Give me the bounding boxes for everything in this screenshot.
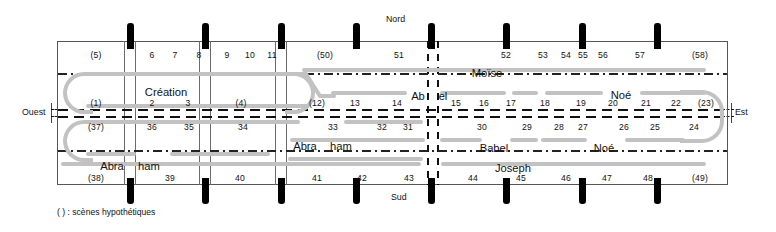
scene-label-abraham_mid2: ham (330, 140, 352, 152)
scene-label-abel_left: Ab (411, 90, 425, 102)
compass-south-label: Sud (391, 192, 407, 202)
pillar-bottom-6 (503, 178, 510, 204)
scene-number-row4-7: 45 (516, 173, 526, 183)
scene-number-row2-4: (12) (309, 98, 325, 108)
scene-number-row2-15: (23) (698, 98, 714, 108)
scene-number-row1-10: 53 (538, 50, 548, 60)
compass-north-label: Nord (386, 14, 405, 24)
scene-number-row1-9: 52 (501, 50, 511, 60)
scene-number-row1-13: 56 (598, 50, 608, 60)
scene-label-creation: Création (145, 86, 187, 98)
scene-label-abel_right: el (439, 90, 448, 102)
scene-label-abraham_mid: Abra (293, 140, 317, 152)
pillar-top-5 (428, 23, 435, 49)
scene-number-row3-13: 24 (689, 122, 699, 132)
scene-number-row2-13: 21 (641, 98, 651, 108)
scene-number-row1-0: (5) (90, 50, 101, 60)
scene-number-row3-2: 35 (184, 122, 194, 132)
compass-east-label: Est (735, 107, 748, 117)
pillar-top-1 (127, 23, 134, 49)
scene-number-row1-11: 54 (561, 50, 571, 60)
track-noe-upper-b (545, 91, 603, 95)
legend-hypothetical-scenes: ( ) : scènes hypothétiques (57, 207, 155, 217)
west-tick-mark (51, 103, 52, 123)
scene-number-row2-8: 16 (479, 98, 489, 108)
scene-number-row2-1: 2 (150, 98, 155, 108)
pillar-bottom-2 (202, 178, 209, 204)
scene-label-abraham_left: Abra (100, 160, 124, 172)
track-abraham-left-lower-2 (170, 152, 270, 156)
track-moise (302, 68, 706, 72)
scene-number-row2-6: 14 (392, 98, 402, 108)
nave-axis-line-upper (58, 109, 727, 111)
nave-axis-line-lower (58, 116, 727, 118)
pillar-bottom-7 (579, 178, 586, 204)
pillar-bottom-5 (428, 178, 435, 204)
scene-number-row1-4: 9 (225, 50, 230, 60)
scene-number-row4-11: (49) (692, 173, 708, 183)
pillar-top-3 (278, 23, 285, 49)
scene-number-row2-0: (1) (90, 98, 101, 108)
scene-number-row1-15: (58) (692, 50, 708, 60)
track-noe-upper-a (512, 91, 538, 95)
scene-label-abraham_left2: ham (138, 160, 160, 172)
scene-number-row1-1: 6 (150, 50, 155, 60)
scene-number-row3-1: 36 (147, 122, 157, 132)
scene-number-row1-3: 8 (197, 50, 202, 60)
scene-label-noe_lower: Noé (594, 142, 615, 154)
scene-label-joseph: Joseph (495, 162, 531, 174)
track-noe-lower-a (541, 138, 587, 142)
scene-number-row3-10: 27 (578, 122, 588, 132)
pillar-bottom-8 (654, 178, 661, 204)
scene-label-moise: Moïse (472, 67, 502, 79)
scene-number-row3-11: 26 (619, 122, 629, 132)
scene-number-row3-3: 34 (238, 122, 248, 132)
scene-number-row1-12: 55 (578, 50, 588, 60)
scene-number-row1-5: 10 (245, 50, 255, 60)
pillar-top-8 (654, 23, 661, 49)
scene-number-row2-2: 3 (186, 98, 191, 108)
scene-number-row3-5: 32 (377, 122, 387, 132)
scene-number-row3-4: 33 (328, 122, 338, 132)
track-creation-upper (86, 72, 307, 76)
scene-number-row1-14: 57 (635, 50, 645, 60)
scene-number-row4-3: 41 (312, 173, 322, 183)
scene-number-row2-3: (4) (235, 98, 246, 108)
pillar-top-7 (579, 23, 586, 49)
scene-number-row2-11: 19 (576, 98, 586, 108)
scene-number-row1-7: (50) (317, 50, 333, 60)
track-babel-right (510, 138, 538, 142)
scene-number-row2-10: 18 (540, 98, 550, 108)
pillar-top-6 (503, 23, 510, 49)
transept-axis-east (437, 41, 439, 185)
scene-number-row3-8: 29 (522, 122, 532, 132)
scene-label-babel: Babel (480, 142, 509, 154)
track-row4-left (288, 157, 423, 161)
register-divider-south (58, 150, 727, 152)
east-tick-mark (731, 103, 732, 123)
scene-number-row4-1: 39 (165, 173, 175, 183)
scene-number-row3-0: (37) (88, 122, 104, 132)
scene-number-row4-8: 46 (561, 173, 571, 183)
pillar-bottom-1 (127, 178, 134, 204)
scene-number-row4-0: (38) (88, 173, 104, 183)
track-joseph-east (441, 162, 706, 166)
track-abel-west (331, 91, 407, 95)
track-babel-left (440, 138, 482, 142)
transept-axis-west (427, 41, 429, 185)
scene-number-row4-9: 47 (602, 173, 612, 183)
track-creation-lower (86, 104, 308, 108)
scene-number-row1-6: 11 (267, 50, 276, 60)
scene-number-row3-7: 30 (477, 122, 487, 132)
scene-number-row4-2: 40 (235, 173, 245, 183)
compass-west-label: Ouest (22, 107, 45, 117)
scene-number-row3-6: 31 (403, 122, 413, 132)
scene-number-row4-10: 48 (643, 173, 653, 183)
scene-number-row1-2: 7 (173, 50, 178, 60)
scene-number-row3-9: 28 (554, 122, 564, 132)
track-abel-east (440, 91, 506, 95)
pillar-top-4 (353, 23, 360, 49)
pillar-bottom-3 (278, 178, 285, 204)
scene-number-row2-9: 17 (506, 98, 516, 108)
scene-number-row3-12: 25 (650, 122, 660, 132)
